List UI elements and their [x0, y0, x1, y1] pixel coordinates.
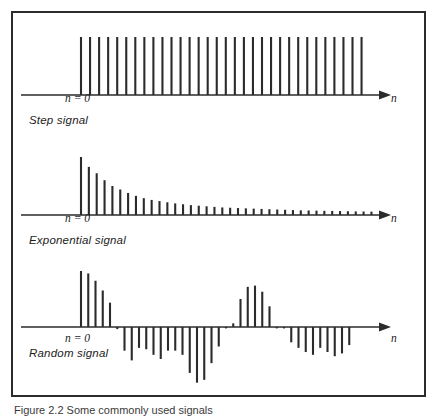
- exponential-origin-label: n = 0: [65, 212, 90, 224]
- step-signal-plot: [19, 23, 419, 103]
- random-origin-label: n = 0: [65, 332, 90, 344]
- exponential-signal-title: Exponential signal: [29, 234, 126, 246]
- figure-frame: n = 0 n Step signal n = 0 n Exponential …: [11, 11, 426, 397]
- figure-root: n = 0 n Step signal n = 0 n Exponential …: [0, 0, 438, 417]
- figure-caption: Figure 2.2 Some commonly used signals: [14, 404, 213, 417]
- step-origin-label: n = 0: [65, 92, 90, 104]
- axis-arrow-icon: [379, 210, 391, 219]
- exponential-axis-label: n: [391, 212, 397, 224]
- random-signal-title: Random signal: [29, 347, 108, 359]
- axis-arrow-icon: [379, 90, 391, 99]
- step-signal-title: Step signal: [29, 114, 88, 126]
- random-axis-label: n: [391, 332, 397, 344]
- axis-arrow-icon: [379, 322, 391, 331]
- step-axis-label: n: [391, 92, 397, 104]
- exponential-signal-plot: [19, 143, 419, 223]
- random-signal-plot: [19, 261, 419, 401]
